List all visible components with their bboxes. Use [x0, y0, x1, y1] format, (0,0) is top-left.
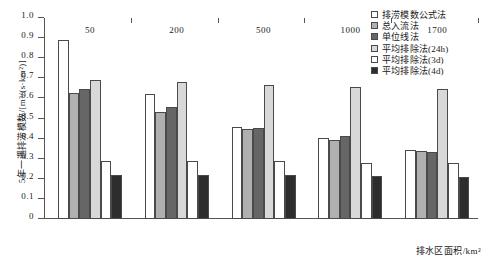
legend-swatch-icon [371, 45, 378, 52]
y-tick: 0.4 [38, 138, 44, 139]
bar [329, 140, 340, 219]
bar-chart: 5年一遇排涝模数/[m³/(s·km²)] 00.10.20.30.40.50.… [0, 0, 489, 261]
bar [155, 112, 166, 219]
bar [253, 128, 264, 219]
x-tick-label: 50 [85, 25, 95, 35]
x-tick [304, 18, 305, 23]
y-tick-label: 0.6 [21, 90, 34, 100]
x-tick-label: 500 [256, 25, 271, 35]
legend-swatch-icon [371, 67, 378, 74]
y-tick-label: 1.0 [21, 10, 34, 20]
bar [79, 89, 90, 219]
y-tick: 0.9 [38, 37, 44, 38]
bar [187, 161, 198, 219]
x-tick [478, 18, 479, 23]
y-tick-label: 0.8 [21, 50, 34, 60]
x-tick-label: 200 [169, 25, 184, 35]
y-tick: 0.6 [38, 97, 44, 98]
bar [448, 163, 459, 219]
y-tick: 0.2 [38, 178, 44, 179]
legend-item[interactable]: 平均排除法(4d) [371, 65, 449, 76]
bar [177, 82, 188, 219]
bar [405, 150, 416, 219]
legend-swatch-icon [371, 33, 378, 40]
bar [427, 152, 438, 219]
y-tick: 0.5 [38, 118, 44, 119]
y-tick-label: 0.2 [21, 171, 34, 181]
bar [361, 163, 372, 219]
y-tick: 0.8 [38, 57, 44, 58]
bar [232, 127, 243, 219]
bar-group [58, 18, 122, 219]
bar-group [232, 18, 296, 219]
y-tick-label: 0.1 [21, 191, 34, 201]
bar [416, 151, 427, 219]
x-tick-label: 1000 [340, 25, 360, 35]
bar [372, 176, 383, 219]
y-tick-label: 0.5 [21, 111, 34, 121]
bar [145, 94, 156, 219]
bar [285, 175, 296, 219]
bar [318, 138, 329, 219]
y-tick-label: 0.4 [21, 131, 34, 141]
x-tick [218, 18, 219, 23]
bar-group [145, 18, 209, 219]
y-tick: 0.3 [38, 158, 44, 159]
y-tick-label: 0.3 [21, 151, 34, 161]
bar [101, 161, 112, 219]
y-tick-label: 0.7 [21, 70, 34, 80]
legend-swatch-icon [371, 11, 378, 18]
y-tick-label: 0 [29, 211, 34, 221]
y-tick-label: 0.9 [21, 30, 34, 40]
bar [90, 80, 101, 219]
legend-swatch-icon [371, 22, 378, 29]
legend: 排涝模数公式法总入流法单位线法平均排除法(24h)平均排除法(3d)平均排除法(… [371, 9, 449, 76]
bar [242, 129, 253, 219]
y-tick: 0.1 [38, 198, 44, 199]
bar [340, 136, 351, 219]
legend-label: 平均排除法(4d) [382, 64, 444, 77]
bar [350, 87, 361, 219]
bar [111, 175, 122, 219]
bar [58, 40, 69, 219]
y-axis-line [44, 18, 45, 219]
x-tick [131, 18, 132, 23]
bar [166, 107, 177, 219]
bar [198, 175, 209, 219]
x-axis-title: 排水区面积/km² [416, 244, 481, 257]
bar [264, 85, 275, 219]
bar [459, 177, 470, 219]
x-tick [44, 18, 45, 23]
y-tick: 0 [38, 218, 44, 219]
bar [69, 93, 80, 219]
legend-swatch-icon [371, 56, 378, 63]
bar [274, 161, 285, 219]
bar [437, 89, 448, 219]
y-tick: 0.7 [38, 77, 44, 78]
